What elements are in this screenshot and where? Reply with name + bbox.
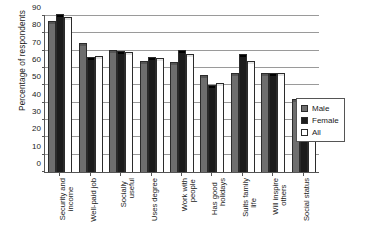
- x-label-cell: Sociallyuseful: [105, 178, 135, 240]
- bar-group: [228, 16, 258, 172]
- legend-label: All: [312, 128, 321, 137]
- bar-group: [136, 16, 166, 172]
- bar-male: [231, 75, 239, 172]
- bar-female: [56, 16, 64, 172]
- y-tick-label: 20: [32, 124, 41, 133]
- x-tick-mark: [211, 172, 212, 176]
- bar-group: [197, 16, 227, 172]
- bar-group: [45, 16, 75, 172]
- y-tick-label: 50: [32, 72, 41, 81]
- bar-female: [178, 52, 186, 172]
- legend-label: Male: [312, 104, 329, 113]
- bar-all: [64, 19, 72, 172]
- bar-male: [140, 63, 148, 172]
- bar-all: [125, 54, 133, 172]
- bar-group: [258, 16, 288, 172]
- female-swatch: [301, 117, 308, 124]
- bar-male: [170, 64, 178, 172]
- x-axis-label-line1: Social status: [302, 178, 311, 221]
- x-axis-labels: Security andincomeWell-paid jobSociallyu…: [44, 178, 318, 240]
- plot-area: 0102030405060708090: [44, 16, 319, 173]
- y-tick-label: 40: [32, 89, 41, 98]
- bar-male: [261, 75, 269, 172]
- bar-all: [216, 85, 224, 172]
- legend-item[interactable]: Female: [301, 114, 339, 126]
- bar-all: [156, 60, 164, 172]
- bar-chart: Percentage of respondents 01020304050607…: [0, 0, 366, 245]
- y-axis-title: Percentage of respondents: [18, 0, 27, 131]
- caption-strip: [0, 238, 366, 245]
- x-axis-label-line1: Well-paid job: [89, 178, 98, 222]
- bar-all: [277, 75, 285, 172]
- x-axis-label-line1: Uses degree: [150, 178, 159, 221]
- y-tick-label: 80: [32, 20, 41, 29]
- y-tick-label: 70: [32, 37, 41, 46]
- bar-female: [208, 87, 216, 172]
- x-label-cell: Has goodholidays: [196, 178, 226, 240]
- bar-group: [75, 16, 105, 172]
- x-tick-mark: [303, 172, 304, 176]
- x-label-cell: Security andincome: [44, 178, 74, 240]
- x-tick-mark: [151, 172, 152, 176]
- legend-label: Female: [312, 116, 339, 125]
- bar-female: [269, 75, 277, 172]
- bar-male: [48, 23, 56, 172]
- bar-all: [247, 63, 255, 172]
- x-tick-mark: [272, 172, 273, 176]
- all-swatch: [301, 129, 308, 136]
- x-label-cell: Social status: [288, 178, 318, 240]
- x-tick-mark: [90, 172, 91, 176]
- bar-all: [95, 58, 103, 172]
- x-axis-label: Uses degree: [151, 178, 159, 221]
- y-tick-label: 30: [32, 107, 41, 116]
- bar-female: [87, 59, 95, 172]
- bar-female: [117, 53, 125, 172]
- y-tick-label: 60: [32, 55, 41, 64]
- x-tick-mark: [120, 172, 121, 176]
- x-tick-mark: [59, 172, 60, 176]
- bar-male: [79, 45, 87, 172]
- x-label-cell: Work withpeople: [166, 178, 196, 240]
- y-tick-label: 90: [32, 3, 41, 12]
- bar-male: [200, 77, 208, 172]
- bar-group: [167, 16, 197, 172]
- x-axis-label: Social status: [303, 178, 311, 221]
- y-tick-label: 0: [37, 159, 41, 168]
- bars-layer: [45, 16, 319, 172]
- x-axis-label: Well-paid job: [90, 178, 98, 222]
- x-tick-mark: [181, 172, 182, 176]
- bar-female: [239, 56, 247, 172]
- x-tick-mark: [242, 172, 243, 176]
- x-label-cell: Uses degree: [135, 178, 165, 240]
- bar-male: [109, 52, 117, 172]
- bar-group: [289, 16, 319, 172]
- male-swatch: [301, 105, 308, 112]
- bar-female: [148, 59, 156, 172]
- x-label-cell: Will inspireothers: [257, 178, 287, 240]
- y-tick-label: 10: [32, 141, 41, 150]
- legend-item[interactable]: All: [301, 126, 339, 138]
- bar-all: [186, 56, 194, 172]
- legend-item[interactable]: Male: [301, 102, 339, 114]
- bar-group: [106, 16, 136, 172]
- legend: MaleFemaleAll: [296, 98, 345, 142]
- x-label-cell: Suits familylife: [227, 178, 257, 240]
- x-label-cell: Well-paid job: [74, 178, 104, 240]
